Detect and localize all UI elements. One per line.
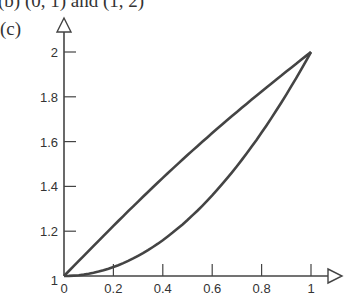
y-tick-label: 2 [51, 45, 58, 60]
x-axis-arrow-icon [328, 269, 342, 283]
x-tick-label: 0.8 [253, 281, 271, 296]
y-axis-arrow-icon [57, 18, 71, 32]
x-tick-label: 0 [60, 281, 67, 296]
x-tick-label: 0.2 [104, 281, 122, 296]
y-tick-label: 1.4 [40, 179, 58, 194]
x-tick-label: 0.4 [154, 281, 172, 296]
plot-area [64, 52, 311, 276]
y-tick-label: 1.6 [40, 135, 58, 150]
chart: 00.20.40.60.8111.21.41.61.82 [0, 0, 346, 299]
x-tick-label: 1 [307, 281, 314, 296]
y-tick-label: 1.8 [40, 90, 58, 105]
series-line-1 [64, 52, 311, 276]
y-tick-label: 1 [51, 273, 58, 288]
y-tick-label: 1.2 [40, 224, 58, 239]
series-line-0 [64, 52, 311, 276]
x-tick-label: 0.6 [203, 281, 221, 296]
